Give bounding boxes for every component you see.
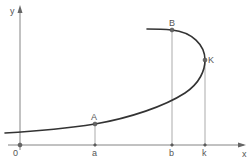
point-a-label: A [91, 112, 97, 122]
foot-point-b [171, 144, 174, 147]
x-axis-label: x [242, 149, 247, 159]
curve [5, 29, 205, 133]
point-k [203, 58, 207, 62]
origin-point [18, 143, 22, 147]
foot-label-k: k [202, 148, 207, 158]
y-axis-label: y [10, 6, 15, 16]
foot-label-a: a [92, 148, 97, 158]
point-k-label: K [208, 55, 214, 65]
origin-label: 0 [13, 148, 18, 158]
point-b-label: B [169, 18, 175, 28]
y-axis-arrow-icon [18, 5, 23, 13]
foot-point-k [204, 144, 207, 147]
point-b [170, 28, 174, 32]
foot-point-a [94, 144, 97, 147]
foot-label-b: b [169, 148, 174, 158]
curve-diagram: y x 0 A B K a b k [0, 0, 252, 167]
point-a [93, 122, 97, 126]
x-axis-arrow-icon [238, 143, 246, 148]
